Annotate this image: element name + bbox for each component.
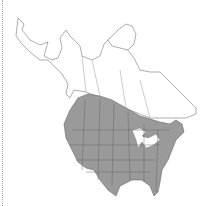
arctic-islands xyxy=(108,24,136,50)
range-map xyxy=(0,0,212,206)
north-america-map xyxy=(0,0,212,206)
